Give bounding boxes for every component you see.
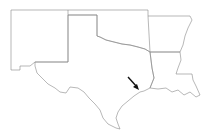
state-texas xyxy=(35,15,154,129)
map xyxy=(0,0,211,136)
state-oklahoma xyxy=(68,10,150,52)
state-louisiana xyxy=(150,52,200,97)
state-new-mexico xyxy=(11,10,68,70)
state-arkansas xyxy=(148,16,192,52)
arrow-annotation xyxy=(128,77,139,90)
